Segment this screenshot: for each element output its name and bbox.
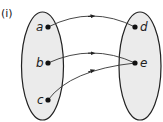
label-b: b	[36, 56, 44, 70]
label-a: a	[36, 20, 43, 34]
point-d	[132, 24, 137, 29]
mapping-diagram: (i) a b c d e	[0, 0, 163, 122]
label-d: d	[140, 20, 148, 34]
diagram-label: (i)	[1, 7, 13, 20]
point-b	[45, 60, 50, 65]
arrow-a-to-d	[48, 16, 135, 27]
point-a	[45, 24, 50, 29]
point-c	[45, 97, 50, 102]
label-e: e	[140, 56, 147, 70]
label-c: c	[37, 93, 44, 107]
point-e	[132, 60, 137, 65]
